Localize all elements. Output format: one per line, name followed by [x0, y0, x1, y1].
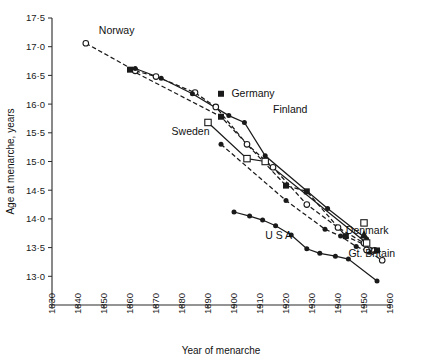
- y-tick-label: 16·0: [26, 99, 45, 110]
- series-label-usa: U S A: [265, 229, 292, 241]
- x-tick-label: 1950: [358, 293, 369, 314]
- x-tick-label: 1910: [254, 293, 265, 314]
- data-point-usa: [247, 214, 252, 219]
- data-point-germany: [127, 67, 133, 73]
- data-point-norway: [153, 74, 159, 80]
- data-point-germany: [218, 114, 224, 120]
- data-point-sweden: [363, 240, 369, 246]
- y-tick-label: 17·5: [26, 12, 45, 23]
- x-tick-label: 1880: [176, 293, 187, 314]
- data-point-finland: [190, 91, 195, 96]
- data-point-germany: [304, 188, 310, 194]
- x-tick-label: 1860: [124, 293, 135, 314]
- series-lines-group: [86, 43, 382, 281]
- series-label-germany: Germany: [231, 87, 275, 99]
- x-tick-label: 1840: [72, 293, 83, 314]
- series-label-gt-britain: Gt. Britain: [348, 247, 395, 259]
- x-tick-label: 1920: [280, 293, 291, 314]
- axis-lines: [52, 18, 390, 305]
- x-tick-label: 1870: [150, 293, 161, 314]
- x-tick-label: 1930: [306, 293, 317, 314]
- data-point-sweden: [244, 155, 250, 161]
- series-label-sweden: Sweden: [172, 125, 210, 137]
- data-point-norway: [213, 104, 219, 110]
- data-point-gt-britain: [338, 234, 343, 239]
- y-tick-label: 13·0: [26, 271, 45, 282]
- y-tick-label: 13·5: [26, 242, 45, 253]
- y-tick-label: 17·0: [26, 41, 45, 52]
- data-point-finland: [242, 120, 247, 125]
- x-tick-label: 1940: [332, 293, 343, 314]
- series-markers-group: [83, 40, 385, 283]
- data-point-usa: [375, 278, 380, 283]
- x-tick-label: 1960: [384, 293, 395, 314]
- x-tick-label: 1890: [202, 293, 213, 314]
- data-point-finland: [263, 153, 268, 158]
- data-point-finland: [133, 66, 138, 71]
- data-point-usa: [304, 246, 309, 251]
- germany-legend-swatch: [218, 91, 224, 97]
- data-point-finland: [325, 206, 330, 211]
- data-point-norway: [270, 164, 276, 170]
- y-tick-label: 14·5: [26, 185, 45, 196]
- data-point-norway: [304, 202, 310, 208]
- data-point-usa: [317, 251, 322, 256]
- data-point-norway: [244, 141, 250, 147]
- data-point-finland: [159, 76, 164, 81]
- data-point-usa: [260, 218, 265, 223]
- x-tick-label: 1850: [98, 293, 109, 314]
- menarche-age-chart: 17·517·016·516·015·515·014·514·013·513·0…: [0, 0, 429, 362]
- data-point-usa: [232, 210, 237, 215]
- data-point-germany: [283, 183, 289, 189]
- y-tick-label: 15·5: [26, 127, 45, 138]
- y-axis-title: Age at menarche, years: [5, 108, 16, 214]
- data-point-usa: [273, 223, 278, 228]
- data-point-sweden: [262, 158, 268, 164]
- y-tick-label: 16·5: [26, 70, 45, 81]
- data-point-gt-britain: [323, 227, 328, 232]
- series-label-denmark: Denmark: [346, 224, 389, 236]
- data-point-gt-britain: [219, 142, 224, 147]
- data-point-usa: [333, 254, 338, 259]
- data-point-norway: [335, 225, 341, 231]
- series-label-finland: Finland: [273, 103, 308, 115]
- chart-canvas: 17·517·016·516·015·515·014·514·013·513·0…: [0, 0, 429, 362]
- axes-group: 17·517·016·516·015·515·014·514·013·513·0…: [5, 12, 395, 356]
- data-point-norway: [83, 40, 89, 46]
- x-tick-label: 1830: [46, 293, 57, 314]
- y-tick-label: 14·0: [26, 213, 45, 224]
- data-point-finland: [226, 113, 231, 118]
- x-axis-title: Year of menarche: [182, 345, 261, 356]
- y-tick-label: 15·0: [26, 156, 45, 167]
- x-tick-label: 1900: [228, 293, 239, 314]
- data-point-gt-britain: [284, 198, 289, 203]
- series-label-norway: Norway: [99, 24, 135, 36]
